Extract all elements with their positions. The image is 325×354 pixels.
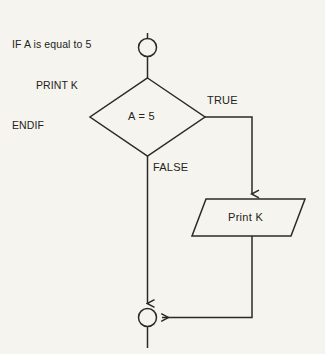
decision-label: A = 5 xyxy=(128,110,155,122)
edge-label-false: FALSE xyxy=(153,161,188,173)
edge-label-true: TRUE xyxy=(207,94,238,106)
start-connector-circle xyxy=(139,39,157,57)
end-connector-circle xyxy=(139,309,157,327)
true-branch-path xyxy=(205,117,252,194)
process-to-merge-path xyxy=(162,236,252,318)
process-label: Print K xyxy=(228,211,263,223)
flowchart-canvas: IF A is equal to 5 PRINT K ENDIF xyxy=(0,0,325,354)
flowchart-svg xyxy=(0,0,325,354)
